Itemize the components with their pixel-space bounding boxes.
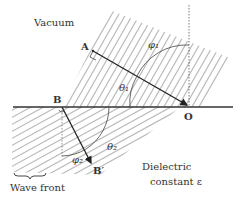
vacuum-label: Vacuum: [34, 18, 74, 28]
point-a-label: A: [81, 42, 89, 52]
theta2-label: θ₂: [107, 142, 117, 152]
phi1-label: φ₁: [148, 40, 159, 50]
point-o-label: O: [184, 112, 193, 122]
refraction-diagram: Vacuum A B O B′ φ₁ θ₁ θ₂ φ₂ Dielectric c…: [0, 0, 243, 207]
point-b-prime-label: B′: [93, 166, 104, 176]
theta1-label: θ₁: [119, 83, 129, 93]
phi2-label: φ₂: [72, 155, 83, 165]
dielectric-label-line1: Dielectric: [142, 162, 191, 172]
wave-front-label: Wave front: [10, 183, 65, 193]
dielectric-label-line2: constant ε: [150, 177, 202, 187]
wave-front-brace: [14, 173, 46, 179]
point-b-label: B: [53, 95, 61, 105]
diagram-canvas: [0, 0, 243, 207]
